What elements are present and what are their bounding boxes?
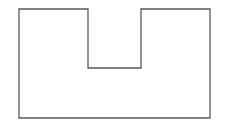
diagram-canvas: [0, 0, 225, 128]
u-shape-outline: [19, 9, 210, 118]
